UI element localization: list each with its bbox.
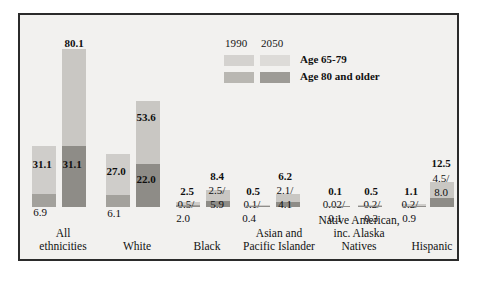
category-label-line1: Hispanic (412, 240, 453, 252)
category-label-native-american: Native American, inc. Alaska Natives (316, 214, 402, 253)
bar-group-native-american: 0.1 0.02/ 0.1 0.5 0.2/ 0.3 Native Americ… (316, 15, 402, 259)
bar-segment-80-plus (136, 164, 160, 207)
value-label-1990-80-plus: 0.2/ (392, 199, 428, 211)
bar-group-asian-pacific-islander: 0.5 0.1/ 0.4 6.2 2.1/ 4.1 Asian and Paci… (242, 15, 316, 259)
bar-1990-white[interactable] (106, 154, 130, 207)
value-label-2050-80-plus: 2.5/ (200, 185, 234, 197)
value-label-2050-80-plus: 2.1/ (268, 185, 302, 197)
value-label-1990-65-79: 0.4 (232, 213, 266, 225)
category-label-line1: White (123, 240, 151, 252)
baseline-native-1990 (326, 206, 350, 207)
value-label-2050-80-plus: 4.5/ (424, 173, 458, 185)
baseline-native-2050 (358, 206, 382, 207)
category-label-line1: Black (194, 240, 221, 252)
value-label-1990-total: 0.1 (318, 185, 352, 197)
value-label-2050-total: 53.6 (128, 111, 164, 123)
value-label-1990-80-plus: 0.5/ (168, 199, 204, 211)
category-label-white: White (102, 240, 172, 253)
category-label-line2: ethnicities (28, 240, 98, 253)
category-label-line1: Asian and (256, 227, 302, 239)
bar-group-hispanic: 1.1 0.2/ 0.9 12.5 4.5/ 8.0 Hispanic (402, 15, 462, 259)
bar-segment-80-plus (62, 146, 86, 207)
value-label-2050-total: 0.5 (354, 185, 388, 197)
value-label-2050-65-79: 5.9 (200, 199, 234, 211)
value-label-2050-65-79: 4.1 (268, 199, 302, 211)
value-label-2050-80-plus: 22.0 (128, 173, 164, 185)
value-label-1990-total: 1.1 (394, 185, 428, 197)
category-label-asian-pacific-islander: Asian and Pacific Islander (242, 227, 316, 253)
value-label-2050-total: 12.5 (424, 157, 458, 169)
chart-screenshot: 1990 2050 Age 65-79 Age 80 and older (0, 0, 477, 285)
category-label-line1: Native American, (318, 214, 399, 226)
value-label-2050-80-plus: 31.1 (54, 158, 90, 170)
bar-2050-all-ethnicities[interactable] (62, 49, 86, 207)
value-label-2050-total: 80.1 (56, 37, 92, 49)
bar-group-all-ethnicities: 80.1 31.1 31.1 6.9 All ethnicities (28, 15, 98, 259)
bar-1990-all-ethnicities[interactable] (32, 146, 56, 207)
category-label-line2: inc. Alaska Natives (316, 227, 402, 253)
category-label-all-ethnicities: All ethnicities (28, 227, 98, 253)
category-label-line2: Pacific Islander (242, 240, 316, 253)
value-label-1990-total: 0.5 (236, 185, 270, 197)
bar-segment-80-plus (106, 195, 130, 207)
value-label-1990-total: 2.5 (170, 185, 204, 197)
chart-frame: 1990 2050 Age 65-79 Age 80 and older (18, 13, 459, 261)
value-label-2050-total: 8.4 (200, 170, 234, 182)
value-label-2050-total: 6.2 (268, 170, 302, 182)
bar-group-white: 27.0 53.6 22.0 6.1 White (102, 15, 172, 259)
baseline-hispanic-1990 (402, 206, 426, 207)
value-label-1990-80-plus: 6.1 (98, 207, 130, 219)
value-label-1990-80-plus: 0.02/ (313, 199, 355, 211)
value-label-1990-80-plus: 6.9 (24, 206, 56, 218)
bars-native-american (316, 39, 402, 207)
value-label-2050-80-plus: 0.2/ (354, 199, 390, 211)
plot-area: 1990 2050 Age 65-79 Age 80 and older (20, 15, 457, 259)
bar-segment-80-plus (430, 198, 454, 207)
category-label-hispanic: Hispanic (402, 240, 462, 253)
category-label-black: Black (172, 240, 242, 253)
category-label-line1: All (56, 227, 71, 239)
value-label-1990-65-79: 2.0 (166, 213, 200, 225)
value-label-2050-65-79: 8.0 (424, 187, 458, 199)
baseline-asian (246, 206, 270, 207)
baseline-black (176, 206, 200, 207)
value-label-1990-65-79: 0.9 (392, 213, 426, 225)
value-label-1990-80-plus: 0.1/ (234, 199, 270, 211)
bars-all-ethnicities (28, 39, 98, 207)
